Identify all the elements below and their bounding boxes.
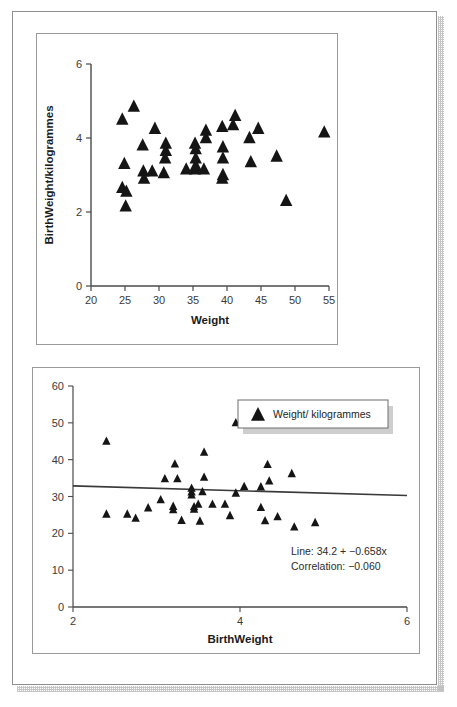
data-point-marker: [171, 459, 179, 467]
data-point-marker: [102, 509, 110, 517]
y-tick-label: 4: [76, 132, 82, 144]
data-point-marker: [217, 140, 229, 152]
data-point-marker: [102, 436, 110, 444]
data-point-marker: [116, 112, 128, 124]
x-tick-label: 4: [237, 615, 243, 627]
data-point-marker: [221, 499, 229, 507]
y-axis-title: BirthWeight/kilogrammes: [43, 105, 55, 244]
data-point-marker: [177, 516, 185, 524]
x-tick-label: 55: [323, 294, 335, 306]
y-tick-label: 6: [76, 58, 82, 70]
x-tick-label: 30: [153, 294, 165, 306]
x-tick-label: 2: [70, 615, 76, 627]
y-tick-label: 20: [52, 527, 64, 539]
legend[interactable]: Weight/ kilogrammes: [238, 400, 393, 434]
x-axis-title: BirthWeight: [208, 633, 273, 645]
data-point-marker: [128, 99, 140, 111]
y-tick-label: 2: [76, 206, 82, 218]
x-axis-title: Weight: [191, 314, 229, 326]
data-point-marker: [270, 149, 282, 161]
data-point-marker: [173, 474, 181, 482]
chart-annotation-0: Line: 34.2 + −0.658x: [291, 545, 387, 557]
data-point-marker: [257, 503, 265, 511]
regression-line: [73, 486, 407, 496]
data-point-marker: [216, 120, 228, 132]
frame-shadow-bottom: [17, 686, 444, 692]
data-point-marker: [208, 499, 216, 507]
data-point-marker: [273, 512, 281, 520]
x-tick-label: 35: [187, 294, 199, 306]
data-point-marker: [229, 109, 241, 121]
x-tick-label: 20: [85, 294, 97, 306]
data-point-marker: [118, 157, 130, 169]
data-point-marker: [144, 503, 152, 511]
y-tick-label: 0: [58, 601, 64, 613]
data-point-marker: [263, 460, 271, 468]
data-point-marker: [226, 511, 234, 519]
legend-entry-label: Weight/ kilogrammes: [273, 408, 371, 420]
chart-panel-top: 02462025303540455055WeightBirthWeight/ki…: [36, 33, 338, 345]
data-point-marker: [196, 516, 204, 524]
data-point-marker: [194, 499, 202, 507]
data-point-marker: [161, 474, 169, 482]
x-tick-label: 25: [119, 294, 131, 306]
x-tick-label: 40: [221, 294, 233, 306]
x-tick-label: 50: [289, 294, 301, 306]
data-point-marker: [318, 125, 330, 137]
scatter-plot-birthweight-vs-weight: 0102030405060246BirthWeightWeight/ kilog…: [33, 368, 419, 653]
chart-annotation-1: Correlation: −0.060: [291, 560, 381, 572]
data-point-marker: [257, 482, 265, 490]
data-point-marker: [265, 476, 273, 484]
data-point-marker: [200, 473, 208, 481]
data-point-marker: [136, 138, 148, 150]
data-point-marker: [131, 513, 139, 521]
y-tick-label: 10: [52, 564, 64, 576]
data-point-marker: [119, 199, 131, 211]
frame-shadow-right: [438, 16, 444, 691]
data-point-marker: [252, 122, 264, 134]
data-point-marker: [123, 509, 131, 517]
data-point-marker: [156, 495, 164, 503]
data-point-marker: [261, 516, 269, 524]
scatter-plot-weight-vs-birthweight: 02462025303540455055WeightBirthWeight/ki…: [37, 34, 337, 344]
data-point-marker: [288, 469, 296, 477]
data-point-marker: [232, 488, 240, 496]
data-point-marker: [149, 122, 161, 134]
data-point-marker: [290, 522, 298, 530]
y-tick-label: 40: [52, 454, 64, 466]
data-point-marker: [280, 194, 292, 206]
y-tick-label: 60: [52, 380, 64, 392]
data-point-marker: [158, 166, 170, 178]
y-tick-label: 30: [52, 491, 64, 503]
data-point-marker: [311, 518, 319, 526]
data-point-marker: [198, 487, 206, 495]
data-point-marker: [217, 151, 229, 163]
x-tick-label: 45: [255, 294, 267, 306]
y-tick-label: 50: [52, 417, 64, 429]
data-point-marker: [146, 164, 158, 176]
y-tick-label: 0: [76, 280, 82, 292]
x-tick-label: 6: [404, 615, 410, 627]
data-point-marker: [200, 447, 208, 455]
page-root: 02462025303540455055WeightBirthWeight/ki…: [0, 0, 457, 707]
data-point-marker: [245, 155, 257, 167]
data-point-marker: [240, 482, 248, 490]
chart-panel-bottom: 0102030405060246BirthWeightWeight/ kilog…: [32, 367, 420, 654]
